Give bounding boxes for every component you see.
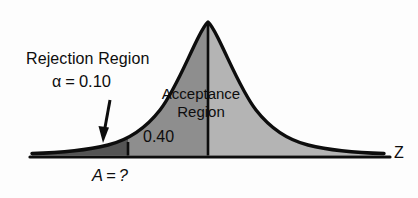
area-value-label: 0.40 <box>143 128 174 147</box>
alpha-number: 0.10 <box>79 72 111 90</box>
alpha-value-label: α=0.10 <box>52 72 111 92</box>
alpha-equals-sign: = <box>61 72 79 90</box>
rejection-region-arrow-icon <box>99 100 111 143</box>
rejection-region-label: Rejection Region <box>26 50 149 69</box>
z-axis-label: Z <box>394 144 404 163</box>
unknown-area-label: A=? <box>92 166 128 185</box>
normal-distribution-figure: Rejection Region α=0.10 Acceptance Regio… <box>0 0 418 198</box>
acceptance-region-label: Acceptance Region <box>149 85 253 120</box>
alpha-symbol: α <box>52 73 61 90</box>
unknown-equals-sign: = <box>103 166 119 184</box>
unknown-symbol: A <box>92 166 103 184</box>
acceptance-region-label-line1: Acceptance <box>162 85 240 102</box>
unknown-question-mark: ? <box>119 166 128 184</box>
acceptance-region-label-line2: Region <box>149 103 253 121</box>
